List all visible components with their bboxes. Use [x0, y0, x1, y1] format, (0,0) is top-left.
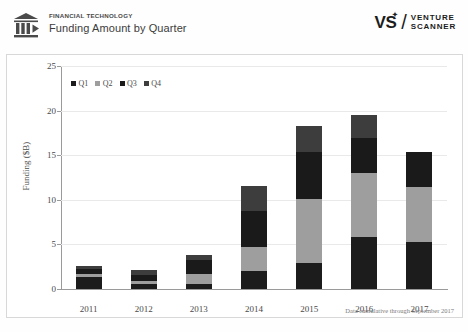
bar-segment-q4[interactable] — [296, 126, 322, 152]
bar-segment-q1[interactable] — [406, 242, 432, 289]
chart-legend: Q1Q2Q3Q4 — [71, 79, 161, 88]
bar-segment-q4[interactable] — [241, 186, 267, 212]
bar-segment-q4[interactable] — [351, 115, 377, 138]
bank-columns-play-icon — [12, 11, 42, 41]
legend-swatch-q3 — [120, 81, 125, 86]
page-title: Funding Amount by Quarter — [49, 23, 187, 34]
category-kicker: FINANCIAL TECHNOLOGY — [49, 13, 187, 19]
legend-item-q2[interactable]: Q2 — [95, 79, 112, 88]
bar-group[interactable] — [171, 66, 226, 289]
bar-group[interactable] — [282, 66, 337, 289]
bar-segment-q1[interactable] — [296, 263, 322, 289]
bar-segment-q1[interactable] — [241, 271, 267, 289]
x-axis-tick-label: 2011 — [80, 304, 98, 314]
y-axis-tick-label: 5 — [52, 239, 57, 249]
legend-swatch-q1 — [71, 81, 76, 86]
bar-group[interactable] — [116, 66, 171, 289]
x-axis-tick-label: 2014 — [245, 304, 263, 314]
brand-line-1: VENTURE — [411, 13, 456, 22]
bar-group[interactable] — [337, 66, 392, 289]
bar-segment-q3[interactable] — [406, 152, 432, 188]
x-axis-tick-label: 2012 — [135, 304, 153, 314]
stacked-bar[interactable] — [131, 270, 157, 289]
bar-segment-q1[interactable] — [131, 284, 157, 289]
stacked-bar[interactable] — [351, 115, 377, 289]
bar-group[interactable] — [61, 66, 116, 289]
header-text-block: FINANCIAL TECHNOLOGY Funding Amount by Q… — [49, 11, 187, 34]
slash-divider: / — [401, 12, 407, 32]
y-axis-tick-mark — [57, 289, 61, 290]
bar-segment-q3[interactable] — [241, 211, 267, 247]
brand-line-2: SCANNER — [411, 22, 456, 31]
legend-swatch-q2 — [95, 81, 100, 86]
stacked-bar[interactable] — [406, 152, 432, 289]
legend-label: Q1 — [79, 79, 89, 88]
financial-technology-branding: FINANCIAL TECHNOLOGY Funding Amount by Q… — [12, 11, 187, 41]
y-axis-tick-label: 0 — [52, 284, 57, 294]
bar-series-group — [61, 66, 447, 289]
y-axis-tick-label: 10 — [47, 195, 56, 205]
y-axis-tick-label: 25 — [47, 61, 56, 71]
plot-area: 0510152025 2011201220132014201520162017 — [61, 66, 447, 289]
bar-segment-q3[interactable] — [186, 260, 212, 274]
plot-wrapper: Funding ($B) 0510152025 2011201220132014… — [7, 55, 462, 317]
bar-segment-q2[interactable] — [241, 247, 267, 271]
legend-item-q4[interactable]: Q4 — [144, 79, 161, 88]
legend-label: Q4 — [151, 79, 161, 88]
bar-group[interactable] — [226, 66, 281, 289]
legend-label: Q3 — [127, 79, 137, 88]
legend-item-q1[interactable]: Q1 — [71, 79, 88, 88]
bar-segment-q2[interactable] — [406, 187, 432, 241]
bar-segment-q1[interactable] — [76, 277, 102, 289]
bar-group[interactable] — [392, 66, 447, 289]
x-axis-tick-label: 2013 — [190, 304, 208, 314]
chart-container: Funding ($B) 0510152025 2011201220132014… — [6, 54, 463, 318]
stacked-bar[interactable] — [241, 186, 267, 289]
stacked-bar[interactable] — [186, 255, 212, 289]
stacked-bar[interactable] — [296, 126, 322, 289]
bar-segment-q1[interactable] — [351, 237, 377, 289]
x-axis-line — [61, 289, 448, 290]
legend-label: Q2 — [103, 79, 113, 88]
chart-header: FINANCIAL TECHNOLOGY Funding Amount by Q… — [0, 0, 468, 52]
star-icon: ✦ — [392, 11, 398, 18]
bar-segment-q3[interactable] — [296, 152, 322, 199]
bar-segment-q2[interactable] — [351, 173, 377, 237]
venture-scanner-logo: VS✦ / VENTURE SCANNER — [375, 12, 456, 32]
y-axis-tick-label: 20 — [47, 106, 56, 116]
bar-segment-q2[interactable] — [296, 199, 322, 263]
legend-item-q3[interactable]: Q3 — [120, 79, 137, 88]
footnote: Data cumulative through September 2017 — [345, 307, 454, 314]
chart-page: FINANCIAL TECHNOLOGY Funding Amount by Q… — [0, 0, 468, 332]
bar-segment-q3[interactable] — [351, 138, 377, 173]
legend-swatch-q4 — [144, 81, 149, 86]
bar-segment-q2[interactable] — [186, 274, 212, 284]
y-axis-tick-label: 15 — [47, 150, 56, 160]
stacked-bar[interactable] — [76, 266, 102, 289]
y-axis-title: Funding ($B) — [21, 121, 31, 211]
vs-monogram: VS✦ — [375, 14, 397, 31]
x-axis-tick-label: 2015 — [300, 304, 318, 314]
bar-segment-q1[interactable] — [186, 284, 212, 289]
venture-scanner-wordmark: VENTURE SCANNER — [411, 13, 456, 31]
